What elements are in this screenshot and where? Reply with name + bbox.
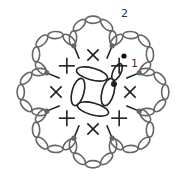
join-dot-icon — [137, 70, 142, 75]
join-dot-icon — [110, 136, 115, 141]
start-marker-icon — [121, 53, 126, 58]
sc-cross-icon — [87, 49, 98, 60]
join-dot-icon — [44, 70, 49, 75]
chain-oval — [85, 161, 100, 168]
sc-cross-icon — [59, 110, 75, 126]
chain-oval — [32, 47, 40, 62]
sc-cross-icon — [50, 86, 61, 97]
chain-oval — [76, 99, 110, 119]
chain-oval — [48, 31, 63, 39]
join-dot-icon — [44, 109, 49, 114]
join-dot-icon — [71, 43, 76, 48]
slip-stitch-icon — [112, 82, 116, 86]
sc-cross-icon — [111, 110, 127, 126]
chain-oval — [17, 84, 24, 99]
sc-cross-icon — [124, 86, 135, 97]
chain-oval — [123, 145, 138, 153]
round-2-petals — [17, 16, 169, 168]
chain-oval — [32, 122, 40, 137]
round-1-stitches — [69, 62, 125, 119]
crochet-diagram — [0, 0, 187, 182]
sc-cross-icon — [59, 58, 75, 74]
round-label-1: 1 — [131, 58, 138, 69]
join-dot-icon — [110, 43, 115, 48]
chain-oval — [75, 64, 109, 84]
join-dot-icon — [137, 109, 142, 114]
chain-oval — [85, 16, 100, 23]
chain-oval — [146, 47, 154, 62]
chain-oval — [123, 31, 138, 39]
chain-oval — [146, 122, 154, 137]
join-dots — [44, 43, 142, 141]
single-crochet-symbols — [47, 46, 139, 138]
chain-oval — [48, 145, 63, 153]
sc-cross-icon — [87, 123, 98, 134]
round-label-2: 2 — [121, 8, 128, 19]
chain-oval — [162, 84, 169, 99]
join-dot-icon — [71, 136, 76, 141]
